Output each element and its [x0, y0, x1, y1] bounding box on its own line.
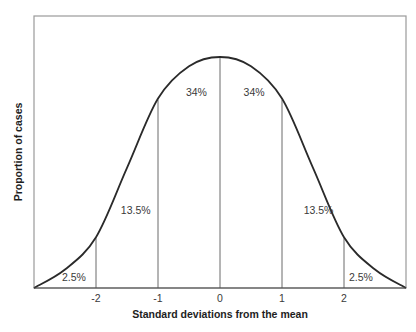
x-tick-label: -2: [91, 292, 100, 304]
region-labels: 2.5%13.5%34%34%13.5%2.5%: [62, 86, 373, 283]
region-label: 13.5%: [304, 204, 334, 216]
region-label: 2.5%: [62, 271, 86, 283]
region-label: 34%: [244, 86, 265, 98]
normal-distribution-chart: 2.5%13.5%34%34%13.5%2.5% -2-1012 Standar…: [0, 0, 416, 332]
x-tick-label: 2: [341, 292, 347, 304]
x-axis-label: Standard deviations from the mean: [132, 308, 308, 320]
region-label: 34%: [186, 86, 207, 98]
y-axis-label: Proportion of cases: [12, 103, 24, 202]
x-tick-label: 0: [217, 292, 223, 304]
x-tick-label: -1: [153, 292, 162, 304]
region-label: 13.5%: [121, 204, 151, 216]
sigma-dividers: [96, 58, 344, 288]
region-label: 2.5%: [349, 271, 373, 283]
x-tick-label: 1: [279, 292, 285, 304]
x-tick-labels: -2-1012: [91, 292, 347, 304]
